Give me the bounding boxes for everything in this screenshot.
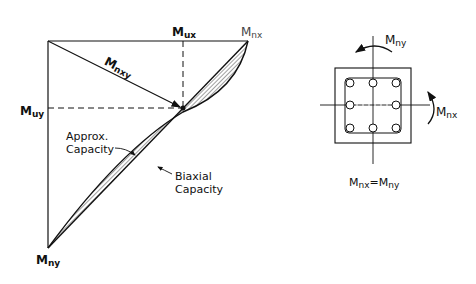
rebar (392, 124, 400, 132)
load-point (181, 106, 186, 111)
rebar (346, 124, 354, 132)
eq-lhs-main: M (349, 176, 359, 189)
column-section (320, 36, 434, 164)
rebar (346, 79, 354, 87)
label-mnx-main: M (241, 25, 251, 39)
label-approx-line1: Approx. (66, 130, 114, 143)
label-biaxial-capacity: Biaxial Capacity (175, 170, 223, 196)
label-mny-sub: ny (48, 258, 60, 268)
eq-lhs-sub: nx (359, 180, 370, 190)
label-biaxial-line2: Capacity (175, 183, 223, 196)
label-section-mny-sub: ny (395, 38, 406, 48)
label-approx-capacity: Approx. Capacity (66, 130, 114, 156)
label-section-mny: Mny (385, 34, 406, 48)
label-mnx: Mnx (241, 26, 262, 40)
label-section-mnx-main: M (436, 105, 446, 119)
label-mux-sub: ux (184, 30, 196, 40)
label-mny-main: M (36, 253, 48, 267)
mnx-moment-arrow-icon (428, 92, 434, 124)
label-mny-plot: Mny (36, 254, 60, 268)
label-section-mny-main: M (385, 33, 395, 47)
label-muy-sub: uy (32, 109, 44, 119)
rebar (392, 101, 400, 109)
eq-rhs-main: M (379, 176, 389, 189)
rebar (392, 79, 400, 87)
label-section-mnx-sub: nx (446, 110, 457, 120)
label-mux-main: M (172, 25, 184, 39)
eq-rhs-sub: ny (388, 180, 399, 190)
eq-sign: = (370, 176, 379, 189)
label-muy: Muy (20, 105, 44, 119)
label-approx-line2: Capacity (66, 143, 114, 156)
label-equation: Mnx=Mny (349, 177, 399, 190)
biaxial-capacity-leader (158, 167, 172, 174)
label-section-mnx: Mnx (436, 106, 457, 120)
label-muy-main: M (20, 104, 32, 118)
label-mux: Mux (172, 26, 196, 40)
rebar (369, 79, 377, 87)
rebar (346, 101, 354, 109)
label-mnx-sub: nx (251, 30, 262, 40)
label-biaxial-line1: Biaxial (175, 170, 223, 183)
rebar (369, 124, 377, 132)
